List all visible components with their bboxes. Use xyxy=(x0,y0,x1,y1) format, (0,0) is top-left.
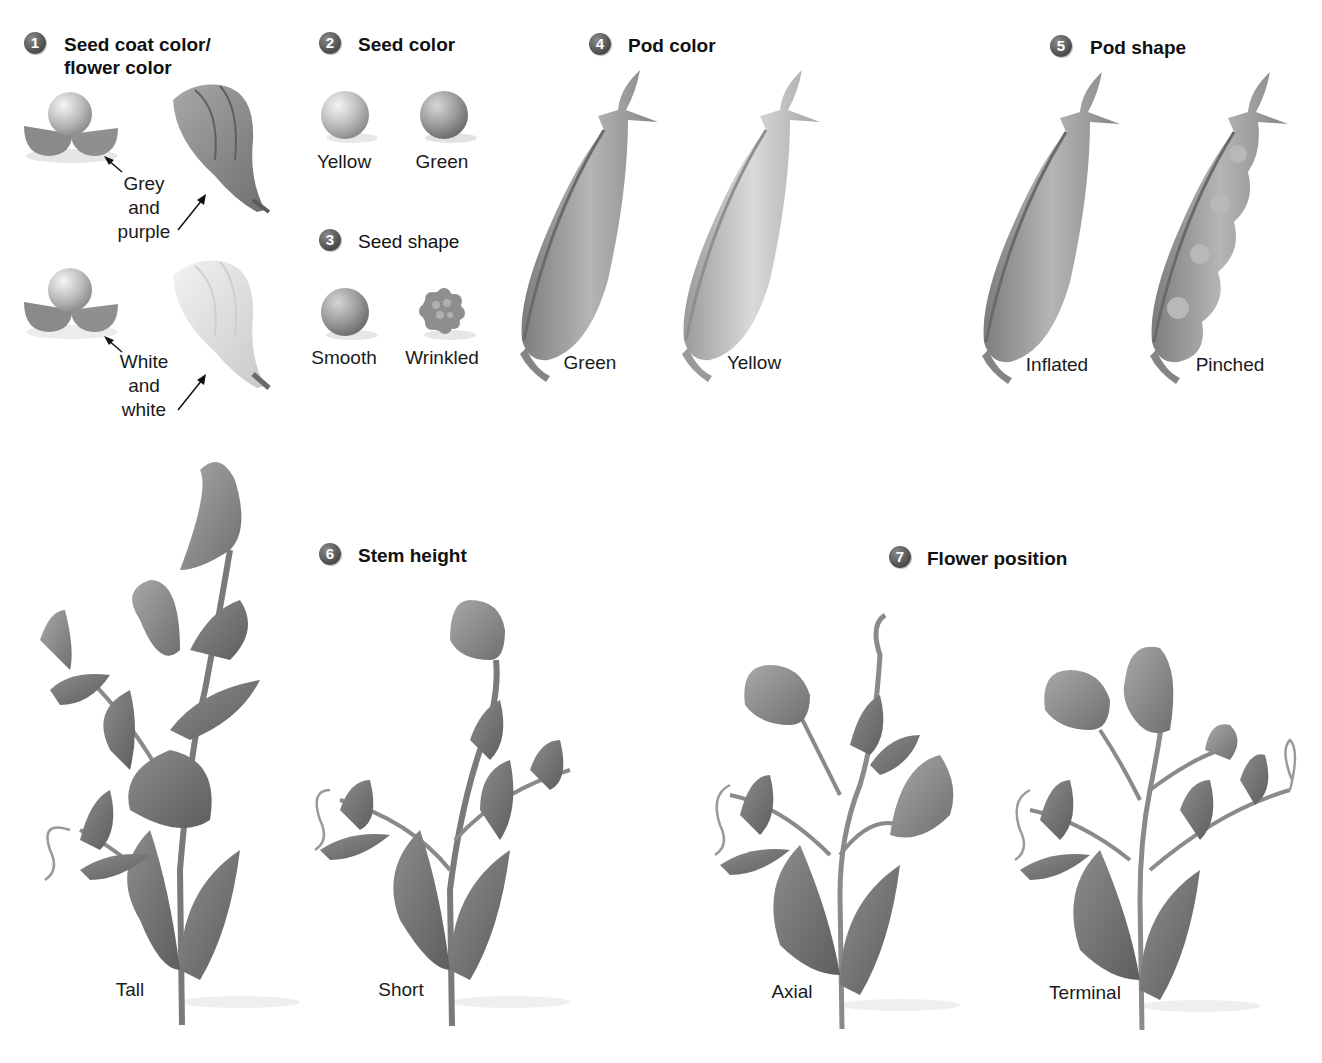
variant-label-yellow-pod: Yellow xyxy=(714,351,794,375)
inflated-pod-icon xyxy=(970,72,1140,392)
trait-title: Stem height xyxy=(358,544,467,567)
variant-label-green: Green xyxy=(402,150,482,174)
terminal-flower-plant-icon xyxy=(1000,640,1310,1035)
smooth-seed-icon xyxy=(318,287,378,343)
trait-title: Seed coat color/ flower color xyxy=(64,33,211,79)
trait-title: Pod color xyxy=(628,34,716,57)
variant-label-terminal: Terminal xyxy=(1040,981,1130,1005)
variant-label-grey-purple: Grey and purple xyxy=(104,172,184,244)
variant-label-yellow: Yellow xyxy=(304,150,384,174)
variant-label-green-pod: Green xyxy=(550,351,630,375)
trait-title: Pod shape xyxy=(1090,36,1186,59)
variant-label-axial: Axial xyxy=(762,980,822,1004)
trait-number-badge: 5 xyxy=(1050,35,1072,57)
trait-number-badge: 4 xyxy=(589,33,611,55)
variant-label-wrinkled: Wrinkled xyxy=(397,346,487,370)
trait-number-badge: 6 xyxy=(319,543,341,565)
trait-title: Seed shape xyxy=(358,230,459,253)
green-pod-icon xyxy=(508,70,678,390)
yellow-seed-icon xyxy=(318,90,378,146)
trait-number-badge: 2 xyxy=(319,32,341,54)
trait-number-badge: 3 xyxy=(319,229,341,251)
yellow-pod-icon xyxy=(670,70,840,390)
wrinkled-seed-icon xyxy=(414,285,480,343)
variant-label-white-white: White and white xyxy=(104,350,184,422)
axial-flower-plant-icon xyxy=(700,595,990,1035)
trait-title: Flower position xyxy=(927,547,1067,570)
tall-plant-icon xyxy=(30,450,290,1040)
variant-label-tall: Tall xyxy=(100,978,160,1002)
variant-label-pinched: Pinched xyxy=(1185,353,1275,377)
variant-label-inflated: Inflated xyxy=(1012,353,1102,377)
pinched-pod-icon xyxy=(1138,72,1308,392)
green-seed-icon xyxy=(417,90,477,146)
trait-title: Seed color xyxy=(358,33,455,56)
trait-number-badge: 7 xyxy=(889,546,911,568)
variant-label-short: Short xyxy=(366,978,436,1002)
trait-number-badge: 1 xyxy=(24,32,46,54)
variant-label-smooth: Smooth xyxy=(304,346,384,370)
short-plant-icon xyxy=(300,590,600,1040)
